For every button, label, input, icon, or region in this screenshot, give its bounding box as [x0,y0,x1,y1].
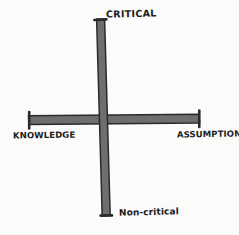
axes-sketch-svg [0,0,239,235]
axis-label-assumption: ASSUMPTION [177,129,239,139]
vertical-axis-top-cap [94,19,106,20]
horizontal-axis-stroke [29,114,200,124]
sketch-canvas: CRITICAL Non-critical KNOWLEDGE ASSUMPTI… [0,0,239,235]
axis-label-knowledge: KNOWLEDGE [13,131,75,140]
axis-label-critical: CRITICAL [106,8,157,19]
axis-label-non-critical: Non-critical [119,207,179,218]
